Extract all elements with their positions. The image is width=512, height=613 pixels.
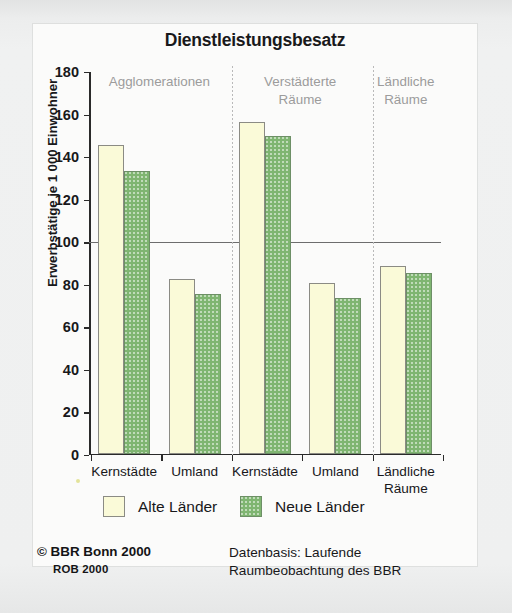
y-tick — [84, 242, 89, 243]
bar-alte[interactable] — [239, 122, 265, 454]
y-tick — [84, 285, 89, 286]
y-tick-label: 80 — [39, 277, 79, 293]
y-tick-label: 140 — [39, 149, 79, 165]
bar-neue[interactable] — [195, 294, 221, 454]
bar-alte[interactable] — [169, 279, 195, 453]
ink-speck — [76, 479, 80, 483]
y-tick — [84, 327, 89, 328]
x-tick — [443, 455, 444, 461]
bar-alte[interactable] — [380, 266, 406, 453]
y-tick-label: 160 — [39, 107, 79, 123]
group-header-label: Agglomerationen — [89, 73, 230, 91]
y-tick-label: 100 — [39, 234, 79, 250]
legend-swatch-neue — [240, 496, 262, 517]
legend-swatch-alte — [103, 496, 125, 517]
bar-neue[interactable] — [406, 273, 432, 454]
y-tick — [84, 200, 89, 201]
x-tick — [302, 455, 303, 461]
x-axis-label: Ländliche Räume — [365, 463, 447, 497]
bar-neue[interactable] — [265, 136, 291, 453]
legend-label: Alte Länder — [138, 498, 217, 516]
chart-panel: Dienstleistungsbesatz Erwerbstätige je 1… — [33, 24, 477, 566]
y-tick-label: 60 — [39, 319, 79, 335]
x-tick — [232, 455, 233, 461]
bar-alte[interactable] — [98, 145, 124, 454]
bar-neue[interactable] — [335, 298, 361, 453]
y-tick-label: 20 — [39, 404, 79, 420]
bar-alte[interactable] — [309, 283, 335, 453]
y-tick — [84, 157, 89, 158]
group-header-label: Ländliche Räume — [371, 73, 441, 109]
x-tick — [91, 455, 92, 461]
group-separator — [373, 66, 374, 455]
y-tick — [84, 370, 89, 371]
chart-title: Dienstleistungsbesatz — [33, 30, 477, 51]
y-tick-label: 180 — [39, 64, 79, 80]
y-tick-label: 0 — [39, 447, 79, 463]
x-tick — [161, 455, 162, 461]
plot-area: Erwerbstätige je 1 000 Einwohner 0204060… — [89, 72, 441, 455]
legend-label: Neue Länder — [275, 498, 365, 516]
rob-text: ROB 2000 — [53, 563, 108, 575]
legend-item[interactable]: Neue Länder — [240, 496, 365, 517]
y-tick-label: 40 — [39, 362, 79, 378]
group-header-label: Verstädterte Räume — [230, 73, 371, 109]
y-tick — [84, 412, 89, 413]
bar-neue[interactable] — [124, 171, 150, 454]
y-tick-label: 120 — [39, 192, 79, 208]
legend: Alte LänderNeue Länder — [33, 496, 477, 530]
legend-item[interactable]: Alte Länder — [103, 496, 217, 517]
x-axis-line — [89, 454, 441, 456]
group-separator — [232, 66, 233, 455]
x-tick — [373, 455, 374, 461]
source-text: Datenbasis: Laufende Raumbeobachtung des… — [229, 544, 401, 580]
y-axis-line — [89, 72, 91, 455]
copyright-text: © BBR Bonn 2000 — [37, 544, 151, 559]
y-tick — [84, 455, 89, 456]
y-tick — [84, 115, 89, 116]
